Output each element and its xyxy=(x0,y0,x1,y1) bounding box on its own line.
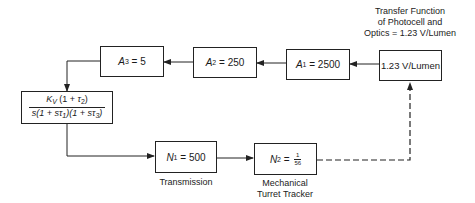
num-part-a: (1 + xyxy=(57,94,78,104)
photocell-block: 1.23 V/Lumen xyxy=(379,50,442,81)
arrow-n2-to-photocell-dashed xyxy=(317,83,410,160)
n1-value: = 500 xyxy=(178,152,206,163)
controller-transfer-function: KV (1 + τ2) s(1 + sτ1)(1 + sτ3) xyxy=(29,94,106,121)
title-line-2: of Photocell and xyxy=(360,17,460,28)
den-part-a: s(1 + s xyxy=(32,108,59,118)
n1-symbol: N xyxy=(166,152,173,163)
title-line-3: Optics = 1.23 V/Lumen xyxy=(360,28,460,39)
a3-value: = 5 xyxy=(129,56,146,67)
n2-fraction: 1 56 xyxy=(294,152,301,167)
controller-block: KV (1 + τ2) s(1 + sτ1)(1 + sτ3) xyxy=(21,91,113,124)
n2-symbol: N xyxy=(270,154,277,165)
n1-caption: Transmission xyxy=(150,177,222,188)
den-part-c: ) xyxy=(99,108,102,118)
n2-block: N2 = 1 56 xyxy=(254,143,317,175)
a2-symbol: A xyxy=(206,57,213,68)
num-part-b: ) xyxy=(85,94,88,104)
a2-value: = 250 xyxy=(216,57,244,68)
n2-caption-line-2: Turret Tracker xyxy=(245,189,325,200)
a2-block: A2 = 250 xyxy=(193,47,257,78)
a3-symbol: A xyxy=(118,56,125,67)
arrow-a3-to-controller xyxy=(67,61,100,91)
n2-frac-num: 1 xyxy=(296,152,299,159)
a3-block: A3 = 5 xyxy=(100,46,164,77)
n1-block: N1 = 500 xyxy=(155,141,217,173)
n2-caption-line-1: Mechanical xyxy=(245,178,325,189)
photocell-label: 1.23 V/Lumen xyxy=(381,60,440,71)
n2-frac-den: 56 xyxy=(294,160,301,167)
a1-value: = 2500 xyxy=(306,59,340,70)
a1-symbol: A xyxy=(296,59,303,70)
controller-denominator: s(1 + sτ1)(1 + sτ3) xyxy=(29,108,106,121)
n2-caption: Mechanical Turret Tracker xyxy=(245,178,325,200)
den-part-b: )(1 + s xyxy=(66,108,92,118)
a1-block: A1 = 2500 xyxy=(286,49,350,80)
n2-equals: = xyxy=(281,154,292,165)
photocell-title: Transfer Function of Photocell and Optic… xyxy=(360,6,460,39)
arrow-controller-to-n1 xyxy=(67,124,154,156)
controller-numerator: KV (1 + τ2) xyxy=(43,94,91,107)
title-line-1: Transfer Function xyxy=(360,6,460,17)
